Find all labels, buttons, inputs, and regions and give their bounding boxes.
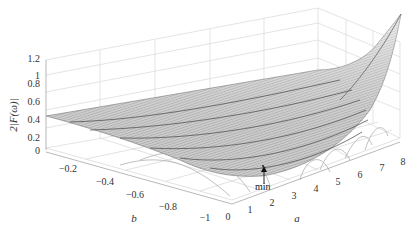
a-tick: 7 — [380, 162, 385, 173]
b-axis-label: b — [131, 212, 137, 224]
surface-plot: min 0 0.2 0.4 0.6 0.8 1 1.2 2|F(ω)| −0.2… — [0, 0, 415, 235]
b-tick: −0.6 — [126, 189, 144, 200]
z-tick: 0.6 — [28, 96, 41, 107]
b-tick: −1 — [200, 212, 211, 223]
z-tick: 1 — [35, 70, 40, 81]
z-tick: 0.4 — [28, 114, 41, 125]
z-axis: 0 0.2 0.4 0.6 0.8 1 1.2 2|F(ω)| — [7, 53, 46, 156]
a-axis-label: a — [294, 212, 300, 224]
b-tick: −0.8 — [159, 201, 177, 212]
b-tick: −0.4 — [96, 176, 114, 187]
z-axis-label: 2|F(ω)| — [7, 98, 20, 131]
a-tick: 6 — [358, 169, 363, 180]
z-tick: 0 — [35, 145, 40, 156]
z-tick: 0.2 — [28, 132, 41, 143]
a-tick: 2 — [270, 197, 275, 208]
a-tick: 5 — [336, 176, 341, 187]
a-tick: 1 — [248, 204, 253, 215]
z-tick: 1.2 — [28, 53, 41, 64]
b-tick: −0.2 — [59, 163, 77, 174]
a-tick: 3 — [292, 190, 297, 201]
a-tick: 0 — [226, 211, 231, 222]
a-tick: 8 — [401, 156, 406, 167]
a-tick: 4 — [314, 183, 319, 194]
